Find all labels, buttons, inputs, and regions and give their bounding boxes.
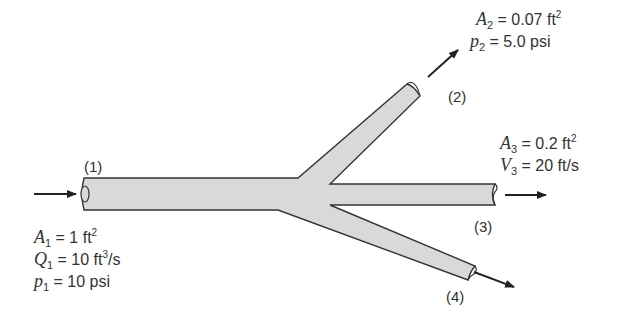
section1-data: A1 = 1 ft2 Q1 = 10 ft3/s p1 = 10 psi <box>34 228 121 294</box>
section-label-1: (1) <box>84 158 102 175</box>
outflow-arrow-2 <box>428 50 458 77</box>
section2-pressure: p2 = 5.0 psi <box>470 32 555 54</box>
section-label-2: (2) <box>448 88 466 105</box>
section3-data: A3 = 0.2 ft2 V3 = 20 ft/s <box>500 134 579 178</box>
section2-area: A2 = 0.07 ft2 <box>476 10 561 32</box>
outflow-arrow-4 <box>474 272 514 287</box>
pipe-body <box>82 84 495 280</box>
section2-data: A2 = 0.07 ft2 p2 = 5.0 psi <box>476 10 561 54</box>
section3-velocity: V3 = 20 ft/s <box>500 156 579 178</box>
section1-flowrate: Q1 = 10 ft3/s <box>34 250 121 272</box>
section1-area: A1 = 1 ft2 <box>34 228 121 250</box>
section1-pressure: p1 = 10 psi <box>34 272 121 294</box>
section-label-3: (3) <box>474 218 492 235</box>
section3-area: A3 = 0.2 ft2 <box>500 134 579 156</box>
pipe-end-1 <box>81 186 89 202</box>
section-label-4: (4) <box>446 288 464 305</box>
